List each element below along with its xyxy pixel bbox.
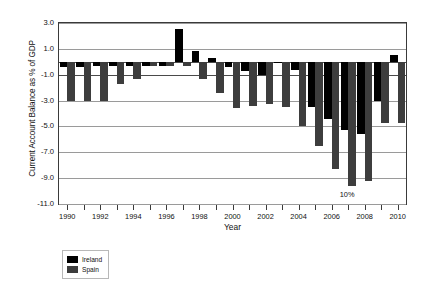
y-tick-label: 3.0: [14, 18, 54, 27]
x-tick-mark: [299, 205, 300, 210]
y-tick-label: -9.0: [14, 173, 54, 182]
bar-spain-2009: [381, 62, 389, 123]
bar-spain-2001: [249, 62, 257, 106]
bar-spain-2010: [398, 62, 406, 123]
bar-spain-1998: [199, 62, 207, 79]
legend-swatch-icon: [67, 266, 78, 273]
x-tick-mark: [216, 205, 217, 210]
bar-ireland-2007: [341, 62, 349, 131]
x-tick-mark: [84, 205, 85, 210]
bar-ireland-2003: [274, 62, 282, 63]
bar-ireland-1996: [159, 62, 167, 66]
bar-spain-2002: [266, 62, 274, 105]
y-tick-label: -5.0: [14, 121, 54, 130]
y-tick-label: -7.0: [14, 147, 54, 156]
x-tick-label: 2010: [378, 212, 418, 221]
y-tick-label: -1.0: [14, 70, 54, 79]
y-tick-label: 1.0: [14, 44, 54, 53]
gridline: [59, 49, 406, 50]
bar-spain-2004: [299, 62, 307, 127]
bar-ireland-2006: [324, 62, 332, 119]
x-tick-mark: [117, 205, 118, 210]
bar-spain-1994: [133, 62, 141, 79]
bar-spain-1992: [100, 62, 108, 101]
x-tick-mark: [199, 205, 200, 210]
x-axis-title: Year: [58, 222, 407, 232]
bar-spain-2007: [348, 62, 356, 186]
x-tick-mark: [365, 205, 366, 210]
bar-ireland-2005: [308, 62, 316, 107]
bar-spain-2000: [233, 62, 241, 109]
x-tick-mark: [398, 205, 399, 210]
legend-swatch-icon: [67, 256, 78, 263]
bar-ireland-2000: [225, 62, 233, 67]
bar-spain-1990: [67, 62, 75, 101]
bar-spain-1996: [166, 62, 174, 66]
bar-ireland-1999: [208, 58, 216, 62]
x-tick-mark: [249, 205, 250, 210]
bar-spain-2005: [315, 62, 323, 146]
bar-spain-2008: [365, 62, 373, 181]
plot-inner: [59, 23, 406, 204]
bar-ireland-1990: [60, 62, 68, 67]
bar-ireland-2001: [241, 62, 249, 71]
x-tick-mark: [233, 205, 234, 210]
legend-item: Ireland: [67, 255, 102, 264]
bar-spain-1991: [84, 62, 92, 101]
bar-ireland-2010: [390, 55, 398, 61]
chart-figure: Current Account Balance as % of GDP 3.01…: [0, 0, 423, 293]
bar-ireland-1994: [126, 62, 134, 66]
legend-item: Spain: [67, 265, 102, 274]
x-tick-mark: [348, 205, 349, 210]
chart-annotation: 10%: [332, 190, 362, 199]
x-tick-mark: [332, 205, 333, 210]
bar-spain-1993: [117, 62, 125, 84]
bar-ireland-1998: [192, 51, 200, 61]
x-tick-mark: [381, 205, 382, 210]
gridline: [59, 23, 406, 24]
x-tick-mark: [183, 205, 184, 210]
bar-spain-1999: [216, 62, 224, 93]
chart-legend: IrelandSpain: [62, 250, 109, 279]
plot-area: [58, 22, 407, 205]
bar-ireland-1991: [76, 62, 84, 67]
bar-spain-1995: [150, 62, 158, 66]
bar-ireland-1993: [109, 62, 117, 66]
x-tick-mark: [266, 205, 267, 210]
x-tick-mark: [133, 205, 134, 210]
x-tick-mark: [315, 205, 316, 210]
x-tick-mark: [282, 205, 283, 210]
legend-label: Ireland: [82, 256, 102, 263]
x-tick-mark: [67, 205, 68, 210]
bar-spain-1997: [183, 62, 191, 66]
bar-ireland-1997: [175, 29, 183, 61]
x-tick-mark: [100, 205, 101, 210]
x-tick-mark: [150, 205, 151, 210]
bar-ireland-2009: [374, 62, 382, 101]
bar-ireland-1995: [142, 62, 150, 66]
x-tick-mark: [166, 205, 167, 210]
bar-ireland-2002: [258, 62, 266, 75]
bar-ireland-2004: [291, 62, 299, 70]
bar-ireland-2008: [357, 62, 365, 134]
y-tick-label: -11.0: [14, 199, 54, 208]
legend-label: Spain: [82, 266, 99, 273]
bar-ireland-1992: [93, 62, 101, 66]
bar-spain-2003: [282, 62, 290, 107]
bar-spain-2006: [332, 62, 340, 169]
y-tick-label: -3.0: [14, 96, 54, 105]
